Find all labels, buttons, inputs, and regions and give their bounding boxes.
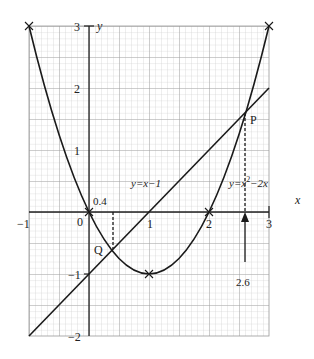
y-tick-1: 1 (74, 144, 80, 158)
y-tick-neg2: −2 (68, 330, 81, 344)
y-axis-label: y (96, 19, 103, 33)
y-tick-neg1: −1 (68, 268, 81, 282)
label-04: 0.4 (93, 195, 107, 207)
line-label-text: y=x−1 (130, 177, 161, 189)
x-tick-3: 3 (266, 217, 272, 231)
curve-label-tail: −2x (250, 177, 268, 189)
label-q: Q (94, 243, 103, 257)
x-axis-label: x (294, 193, 301, 207)
curve-label-main: y=x (228, 177, 246, 189)
line-label: y=x−1 (130, 177, 161, 189)
y-tick-2: 2 (74, 82, 80, 96)
graph: 3 y 2 1 −1 −2 −1 0 1 2 3 x 0.4 Q P 2.6 y… (0, 0, 314, 359)
label-p: P (250, 113, 257, 127)
x-tick-2: 2 (206, 217, 212, 231)
x-tick-1: 1 (147, 217, 153, 231)
y-tick-3: 3 (74, 20, 80, 34)
origin-label: 0 (77, 215, 83, 229)
x-tick-neg1: −1 (17, 217, 30, 231)
label-26: 2.6 (236, 276, 250, 288)
